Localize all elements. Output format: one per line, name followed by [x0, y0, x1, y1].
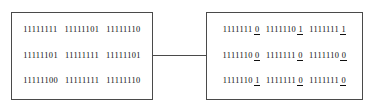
bit-prefix: 1111111 — [309, 25, 339, 34]
bit-prefix: 11111111 — [23, 25, 57, 34]
original-bit-block-panel: 11111111 11111101 11111110 11111101 1111… — [11, 12, 153, 100]
table-row: 11111100 11111110 11111100 — [207, 52, 362, 60]
table-row: 11111100 11111111 11111110 — [12, 77, 152, 85]
bit-prefix: 1111110 — [223, 51, 253, 60]
bit-lsb-underlined: 0 — [254, 25, 260, 35]
modified-bit-block-panel: 11111110 11111101 11111111 11111100 1111… — [206, 12, 363, 100]
bit-lsb-underlined: 1 — [340, 25, 346, 35]
bit-prefix: 1111111 — [266, 76, 296, 85]
table-row: 11111101 11111111 11111101 — [12, 52, 152, 60]
bit-group: 11111110 — [223, 26, 260, 34]
bit-group: 11111110 — [106, 77, 140, 85]
bit-lsb-underlined: 0 — [297, 51, 303, 61]
table-row: 11111111 11111101 11111110 — [12, 26, 152, 34]
binary-block-diagram: 11111111 11111101 11111110 11111101 1111… — [0, 0, 374, 112]
table-row: 11111110 11111101 11111111 — [207, 26, 362, 34]
bit-prefix: 1111110 — [309, 51, 339, 60]
bit-group: 11111101 — [64, 26, 99, 34]
bit-group: 11111111 — [309, 26, 346, 34]
bit-lsb-underlined: 0 — [254, 51, 260, 61]
bit-group: 11111110 — [266, 77, 303, 85]
bit-group: 11111111 — [65, 77, 99, 85]
bit-group: 11111101 — [266, 26, 303, 34]
bit-group: 11111100 — [309, 52, 346, 60]
bit-prefix: 1111110 — [223, 76, 253, 85]
bit-prefix: 11111110 — [106, 25, 140, 34]
bit-prefix: 1111111 — [223, 25, 253, 34]
bit-group: 11111101 — [106, 52, 141, 60]
bit-group: 11111110 — [309, 77, 346, 85]
bit-prefix: 11111111 — [65, 76, 99, 85]
bit-lsb-underlined: 0 — [340, 76, 346, 86]
bit-prefix: 11111100 — [23, 76, 58, 85]
bit-group: 11111111 — [23, 26, 57, 34]
bit-group: 11111101 — [23, 52, 58, 60]
bit-prefix: 11111101 — [23, 51, 58, 60]
bit-prefix: 1111111 — [309, 76, 339, 85]
bit-group: 11111111 — [65, 52, 99, 60]
bit-lsb-underlined: 1 — [297, 25, 303, 35]
bit-group: 11111110 — [266, 52, 303, 60]
bit-group: 11111100 — [223, 52, 260, 60]
bit-group: 11111110 — [106, 26, 140, 34]
bit-prefix: 11111101 — [64, 25, 99, 34]
bit-prefix: 11111111 — [65, 51, 99, 60]
bit-prefix: 11111101 — [106, 51, 141, 60]
panel-connector-line — [153, 55, 206, 56]
bit-prefix: 1111111 — [266, 51, 296, 60]
bit-prefix: 11111110 — [106, 76, 140, 85]
bit-lsb-underlined: 0 — [340, 51, 346, 61]
table-row: 11111101 11111110 11111110 — [207, 77, 362, 85]
bit-lsb-underlined: 0 — [297, 76, 303, 86]
bit-prefix: 1111110 — [266, 25, 296, 34]
bit-group: 11111100 — [23, 77, 58, 85]
bit-lsb-underlined: 1 — [254, 76, 260, 86]
bit-group: 11111101 — [223, 77, 260, 85]
